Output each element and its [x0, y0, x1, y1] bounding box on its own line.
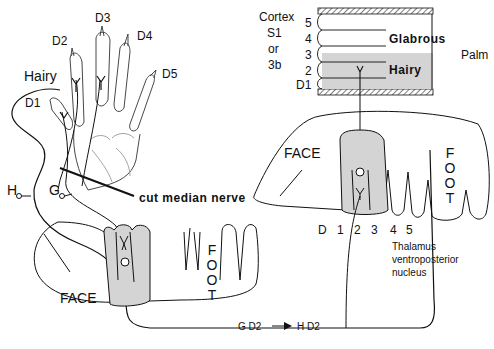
cortex-title-line: Cortex — [259, 11, 294, 23]
cortex-row-label: 4 — [305, 33, 312, 45]
cortex-row-label: 3 — [305, 49, 312, 61]
lower-face-label: FACE — [60, 291, 97, 305]
thalamus-foot-label: F O O T — [443, 146, 457, 206]
palm-label: Palm — [461, 49, 488, 61]
cut-median-nerve-label: cut median nerve — [139, 192, 246, 204]
thalamus-caption: ventroposterior — [392, 254, 459, 265]
digit-label-d4: D4 — [137, 30, 152, 42]
nerve-g-label: G — [49, 183, 60, 197]
cortex-hairy-label: Hairy — [389, 64, 422, 76]
thalamus-face-label: FACE — [284, 146, 321, 160]
cortex-box — [318, 8, 434, 95]
thalamus-digit-axis: 5 — [406, 224, 413, 236]
cortex-title-line: 3b — [268, 59, 281, 71]
thalamus-digit-axis: 2 — [354, 224, 361, 236]
nerve-h-label: H — [7, 183, 17, 197]
cortex-row-label: 5 — [305, 17, 312, 29]
cortex-row-label: D1 — [296, 79, 311, 91]
thalamus-digit-axis: 4 — [390, 224, 397, 236]
lower-foot-label: F O O T — [205, 243, 219, 303]
nerve-fiber — [82, 80, 100, 186]
hand-outline — [50, 26, 156, 190]
cortex-row-label: 2 — [305, 65, 312, 77]
digit-label-d1: D1 — [25, 97, 40, 109]
hand-hairy-label: Hairy — [24, 69, 57, 83]
digit-label-d3: D3 — [95, 12, 110, 24]
thalamus-caption: nucleus — [392, 267, 426, 278]
thalamus-digit-axis: 3 — [371, 224, 378, 236]
digit-label-d5: D5 — [162, 68, 177, 80]
remap-to-label: H D2 — [297, 321, 320, 332]
remap-from-label: G D2 — [238, 321, 261, 332]
thalamus-digit-axis: D — [318, 224, 327, 236]
cortex-title-line: S1 — [267, 27, 282, 39]
digit-label-d2: D2 — [52, 35, 67, 47]
thalamus-digit-axis: 1 — [337, 224, 344, 236]
cut-line — [60, 168, 134, 196]
cortex-glabrous-label: Glabrous — [389, 33, 446, 45]
cortex-title-line: or — [268, 43, 279, 55]
thalamus-caption: Thalamus — [392, 241, 436, 252]
